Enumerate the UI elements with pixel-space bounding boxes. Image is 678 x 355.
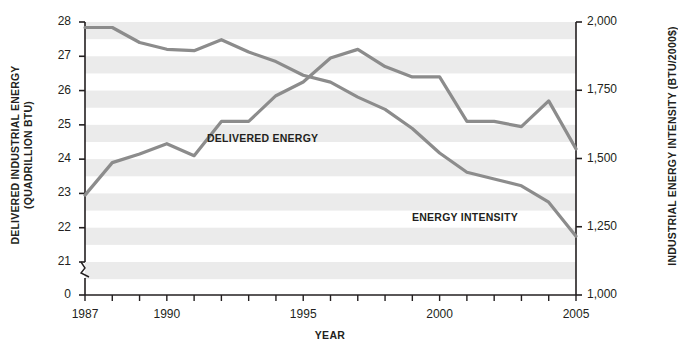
y-axis-right-tick-label: 1,250 xyxy=(587,219,637,233)
x-axis-tick-label: 1987 xyxy=(55,307,115,321)
x-axis-tick-label: 2000 xyxy=(410,307,470,321)
x-axis-tick-label: 1995 xyxy=(273,307,333,321)
y-axis-right-tick-label: 1,500 xyxy=(587,151,637,165)
y-axis-right-title: INDUSTRIAL ENERGY INTENSITY (BTU/2000$) xyxy=(666,17,678,275)
y-axis-left-tick-label: 0 xyxy=(31,287,71,301)
y-axis-left-title-line1: DELIVERED INDUSTRIAL ENERGY xyxy=(9,65,21,244)
series-label-energy-intensity: ENERGY INTENSITY xyxy=(412,211,518,223)
x-axis-tick-label: 1990 xyxy=(137,307,197,321)
y-axis-left-tick-label: 27 xyxy=(31,48,71,62)
y-axis-left-tick-label: 22 xyxy=(31,220,71,234)
series-label-delivered-energy: DELIVERED ENERGY xyxy=(207,132,318,144)
x-axis-tick-label: 2005 xyxy=(546,307,606,321)
x-axis-title: YEAR xyxy=(230,329,430,341)
y-axis-right-tick-label: 1,750 xyxy=(587,82,637,96)
y-axis-left-tick-label: 28 xyxy=(31,14,71,28)
background-bands xyxy=(85,22,576,279)
y-axis-right-tick-label: 1,000 xyxy=(587,287,637,301)
y-axis-left-tick-label: 23 xyxy=(31,185,71,199)
y-axis-left-tick-label: 26 xyxy=(31,83,71,97)
y-axis-left-tick-label: 25 xyxy=(31,117,71,131)
y-axis-right-tick-label: 2,000 xyxy=(587,14,637,28)
y-axis-left-tick-label: 21 xyxy=(31,254,71,268)
y-axis-left-tick-label: 24 xyxy=(31,151,71,165)
